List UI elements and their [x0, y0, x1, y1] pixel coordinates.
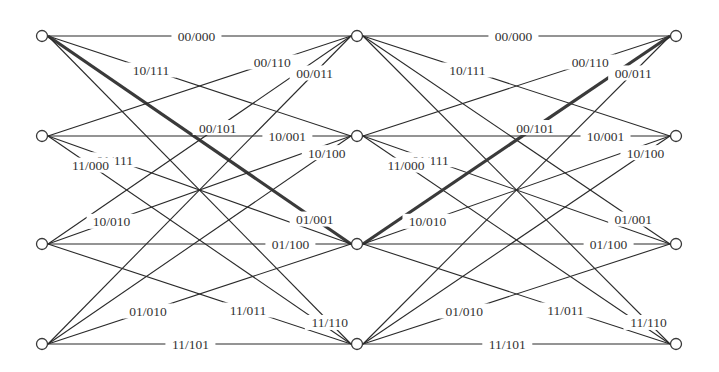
- transition-label: 11/110: [630, 315, 667, 330]
- transition-label: 11/011: [547, 303, 584, 318]
- transition-label: 10/001: [269, 129, 307, 144]
- transition-label: 10/010: [409, 214, 447, 229]
- state-node-s2-col1: [352, 239, 363, 250]
- state-node-s0-col2: [671, 31, 682, 42]
- transition-label: 00/110: [572, 55, 609, 70]
- transition-label: 00/101: [199, 121, 237, 136]
- transition-label: 01/001: [296, 212, 334, 227]
- trellis-diagram: 00/00010/11101/00111/11000/11010/00101/1…: [0, 0, 719, 372]
- transition-label: 10/111: [133, 63, 170, 78]
- transition-label: 00/011: [615, 66, 652, 81]
- state-node-s0-col0: [37, 31, 48, 42]
- transition-label: 10/100: [308, 146, 346, 161]
- transition-label: 00/000: [178, 29, 216, 44]
- transition-label: 10/100: [627, 146, 665, 161]
- state-nodes: [37, 31, 682, 350]
- trellis-edges: [48, 36, 670, 344]
- transition-label: 10/010: [93, 214, 131, 229]
- transition-label: 00/000: [495, 29, 533, 44]
- transition-label: 11/101: [172, 337, 209, 352]
- state-node-s2-col0: [37, 239, 48, 250]
- transition-label: 01/100: [272, 237, 310, 252]
- transition-label: 10/111: [449, 63, 486, 78]
- transition-label: 01/010: [129, 304, 167, 319]
- transition-label: 00/011: [296, 66, 333, 81]
- transition-label: 00/110: [254, 55, 291, 70]
- transition-label: 01/010: [446, 304, 484, 319]
- state-node-s1-col0: [37, 131, 48, 142]
- transition-label: 01/001: [614, 212, 652, 227]
- state-node-s0-col1: [352, 31, 363, 42]
- state-node-s3-col1: [352, 339, 363, 350]
- state-node-s2-col2: [671, 239, 682, 250]
- transition-label: 00/101: [516, 121, 554, 136]
- transition-label: 11/000: [387, 158, 424, 173]
- transition-label: 11/000: [72, 158, 109, 173]
- transition-label: 11/011: [230, 303, 267, 318]
- state-node-s1-col2: [671, 131, 682, 142]
- transition-label: 01/100: [590, 237, 628, 252]
- state-node-s1-col1: [352, 131, 363, 142]
- transition-label: 11/101: [489, 337, 526, 352]
- state-node-s3-col2: [671, 339, 682, 350]
- transition-label: 11/110: [312, 315, 349, 330]
- transition-labels: 00/00010/11101/00111/11000/11010/00101/1…: [65, 29, 673, 353]
- state-node-s3-col0: [37, 339, 48, 350]
- transition-label: 10/001: [587, 129, 625, 144]
